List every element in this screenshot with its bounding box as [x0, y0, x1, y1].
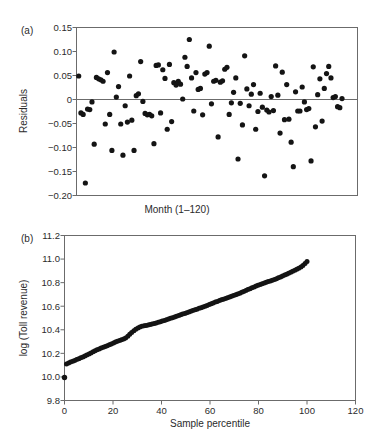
scatter-point — [156, 62, 161, 67]
scatter-point — [271, 108, 276, 113]
scatter-point — [311, 64, 316, 69]
quantile-point — [62, 375, 67, 380]
scatter-point — [216, 134, 221, 139]
panel-b-xtick-labels: 020406080100120 — [62, 405, 364, 416]
scatter-point — [251, 82, 256, 87]
panel-b-ytick-label: 10.8 — [42, 277, 61, 288]
scatter-point — [266, 109, 271, 114]
scatter-point — [313, 124, 318, 129]
scatter-point — [116, 84, 121, 89]
panel-a-label: (a) — [21, 25, 33, 36]
scatter-point — [87, 107, 92, 112]
scatter-point — [322, 86, 327, 91]
scatter-point — [315, 92, 320, 97]
scatter-point — [273, 63, 278, 68]
scatter-point — [118, 121, 123, 126]
scatter-point — [189, 75, 194, 80]
panel-b-plot-frame — [65, 236, 356, 401]
panel-a-ytick-label: 0.15 — [54, 22, 73, 33]
figure-svg: (a) 0.150.100.050−0.05−0.10−0.15−0.20 Mo… — [0, 0, 375, 443]
panel-b-label: (b) — [21, 233, 33, 244]
scatter-point — [229, 100, 234, 105]
scatter-point — [227, 112, 232, 117]
scatter-point — [105, 70, 110, 75]
panel-b-xtick-label: 80 — [253, 405, 264, 416]
scatter-point — [109, 148, 114, 153]
panel-a-ytick-labels: 0.150.100.050−0.05−0.10−0.15−0.20 — [48, 22, 72, 201]
scatter-point — [238, 101, 243, 106]
scatter-point — [182, 55, 187, 60]
quantile-point — [305, 259, 310, 264]
scatter-point — [249, 92, 254, 97]
scatter-point — [160, 67, 165, 72]
panel-a-data-points — [76, 37, 345, 186]
scatter-point — [158, 110, 163, 115]
scatter-point — [167, 62, 172, 67]
scatter-point — [149, 113, 154, 118]
scatter-point — [89, 99, 94, 104]
scatter-point — [103, 121, 108, 126]
scatter-point — [302, 99, 307, 104]
scatter-point — [231, 90, 236, 95]
scatter-point — [81, 112, 86, 117]
scatter-point — [193, 70, 198, 75]
scatter-point — [100, 79, 105, 84]
panel-a-ytick-label: −0.15 — [48, 166, 72, 177]
scatter-point — [136, 91, 141, 96]
panel-b-xtick-label: 60 — [205, 405, 216, 416]
panel-b-ytick-label: 10.4 — [42, 324, 61, 335]
scatter-point — [297, 108, 302, 113]
scatter-point — [324, 71, 329, 76]
scatter-point — [162, 76, 167, 81]
scatter-point — [326, 64, 331, 69]
panel-b-yaxis-title: log (Toll revenue) — [18, 280, 29, 357]
panel-b-xtick-label: 40 — [156, 405, 167, 416]
scatter-point — [220, 78, 225, 83]
panel-b-ytick-label: 11.2 — [42, 230, 60, 241]
scatter-point — [92, 142, 97, 147]
scatter-point — [300, 84, 305, 89]
scatter-point — [262, 173, 267, 178]
scatter-point — [308, 158, 313, 163]
scatter-point — [140, 99, 145, 104]
panel-b-xtick-label: 120 — [348, 405, 364, 416]
panel-b-ytick-labels: 11.211.010.810.610.410.210.09.8 — [42, 230, 61, 406]
scatter-point — [269, 94, 274, 99]
scatter-point — [114, 95, 119, 100]
scatter-point — [198, 86, 203, 91]
panel-a-ytick-label: 0.05 — [54, 70, 73, 81]
panel-a-ytick-label: −0.20 — [48, 190, 72, 201]
scatter-point — [213, 78, 218, 83]
scatter-point — [129, 118, 134, 123]
scatter-point — [246, 103, 251, 108]
figure-container: (a) 0.150.100.050−0.05−0.10−0.15−0.20 Mo… — [0, 0, 375, 443]
scatter-point — [200, 112, 205, 117]
scatter-point — [180, 96, 185, 101]
panel-b-xtick-label: 20 — [108, 405, 119, 416]
scatter-point — [165, 127, 170, 132]
panel-a-ytick-marks — [73, 28, 77, 196]
scatter-point — [255, 109, 260, 114]
scatter-point — [275, 93, 280, 98]
scatter-point — [289, 140, 294, 145]
scatter-point — [260, 105, 265, 110]
scatter-point — [280, 70, 285, 75]
scatter-point — [83, 180, 88, 185]
scatter-point — [127, 73, 132, 78]
panel-a-ytick-label: −0.05 — [48, 118, 72, 129]
scatter-point — [120, 153, 125, 158]
scatter-point — [253, 127, 258, 132]
scatter-point — [235, 156, 240, 161]
panel-b-ytick-label: 9.8 — [47, 395, 60, 406]
panel-a-yaxis-title: Residuals — [18, 89, 29, 133]
scatter-point — [125, 119, 130, 124]
panel-b-data-points — [62, 259, 310, 380]
scatter-point — [337, 105, 342, 110]
scatter-point — [138, 59, 143, 64]
scatter-point — [242, 53, 247, 58]
scatter-point — [178, 82, 183, 87]
scatter-point — [333, 94, 338, 99]
scatter-point — [169, 119, 174, 124]
scatter-point — [293, 89, 298, 94]
panel-b-ytick-label: 10.0 — [42, 371, 61, 382]
